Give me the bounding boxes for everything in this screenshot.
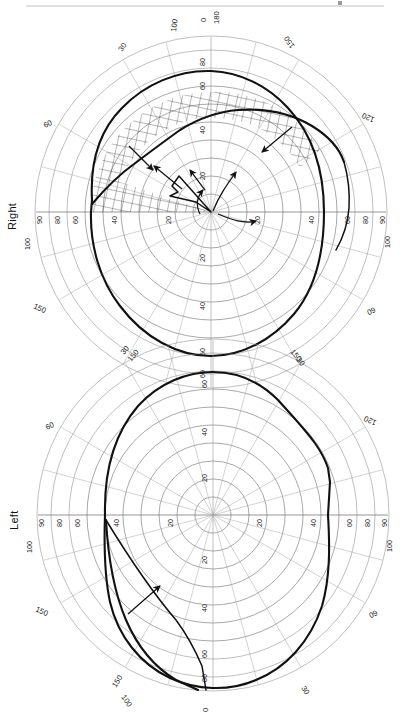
svg-text:60: 60 <box>365 305 376 317</box>
svg-text:60: 60 <box>198 82 207 90</box>
right-eye-label: Right <box>6 203 18 230</box>
svg-text:150: 150 <box>32 302 47 316</box>
svg-text:20: 20 <box>200 474 209 482</box>
svg-text:90: 90 <box>378 216 387 224</box>
right-meridian-labels: 0 180 30 150 60 120 150 60 100 <box>32 11 377 317</box>
svg-text:20: 20 <box>166 519 175 527</box>
svg-text:120: 120 <box>361 111 376 125</box>
svg-text:20: 20 <box>200 556 209 564</box>
svg-text:40: 40 <box>198 126 207 134</box>
svg-text:100: 100 <box>25 541 34 553</box>
left-eye-plot: 40 20 20 40 60 80 90 100 60 80 90 100 60… <box>8 333 400 712</box>
svg-text:100: 100 <box>169 19 179 33</box>
svg-text:60: 60 <box>44 420 55 432</box>
svg-text:60: 60 <box>343 216 352 224</box>
svg-text:30: 30 <box>299 684 311 696</box>
svg-text:80: 80 <box>55 519 64 527</box>
svg-text:100: 100 <box>119 693 134 709</box>
svg-text:60: 60 <box>71 216 80 224</box>
svg-text:150: 150 <box>110 674 124 690</box>
svg-text:40: 40 <box>307 216 316 224</box>
svg-text:40: 40 <box>200 428 209 436</box>
right-eye-plot: 40 20 20 40 60 80 90 100 60 80 90 100 80… <box>6 11 398 394</box>
svg-text:90: 90 <box>380 519 389 527</box>
left-kinetic-arrows <box>128 586 160 614</box>
svg-text:80: 80 <box>53 216 62 224</box>
left-eye-label: Left <box>8 510 20 530</box>
svg-text:60: 60 <box>345 519 354 527</box>
svg-text:80: 80 <box>361 216 370 224</box>
svg-text:20: 20 <box>164 216 173 224</box>
svg-text:80: 80 <box>200 674 209 682</box>
svg-text:30: 30 <box>116 41 128 53</box>
svg-text:0: 0 <box>201 708 210 712</box>
svg-text:60: 60 <box>200 380 209 388</box>
svg-text:100: 100 <box>385 540 394 552</box>
left-grid-meridians <box>26 333 400 697</box>
svg-text:100: 100 <box>383 236 392 248</box>
svg-text:20: 20 <box>198 172 207 180</box>
visual-field-chart-page: 40 20 20 40 60 80 90 100 60 80 90 100 80… <box>0 0 408 714</box>
svg-text:0: 0 <box>199 18 208 22</box>
right-temporal-step <box>336 162 349 250</box>
svg-text:180: 180 <box>212 11 221 24</box>
svg-text:60: 60 <box>367 608 378 620</box>
svg-text:90: 90 <box>37 519 46 527</box>
svg-text:80: 80 <box>198 58 207 66</box>
svg-text:120: 120 <box>363 414 378 428</box>
svg-text:20: 20 <box>198 254 207 262</box>
svg-text:20: 20 <box>255 519 264 527</box>
svg-text:40: 40 <box>309 519 318 527</box>
svg-text:150: 150 <box>34 605 49 619</box>
svg-text:60: 60 <box>200 650 209 658</box>
svg-text:60: 60 <box>198 348 207 356</box>
header-rule <box>26 1 384 6</box>
svg-text:90: 90 <box>35 216 44 224</box>
svg-text:150: 150 <box>282 34 297 50</box>
svg-text:40: 40 <box>198 302 207 310</box>
svg-text:40: 40 <box>112 519 121 527</box>
visual-field-chart-canvas: 40 20 20 40 60 80 90 100 60 80 90 100 80… <box>0 0 408 714</box>
svg-text:60: 60 <box>73 519 82 527</box>
svg-text:20: 20 <box>253 216 262 224</box>
svg-text:40: 40 <box>110 216 119 224</box>
svg-text:100: 100 <box>23 238 32 250</box>
svg-text:60: 60 <box>42 118 53 130</box>
svg-text:40: 40 <box>200 604 209 612</box>
svg-text:80: 80 <box>363 519 372 527</box>
